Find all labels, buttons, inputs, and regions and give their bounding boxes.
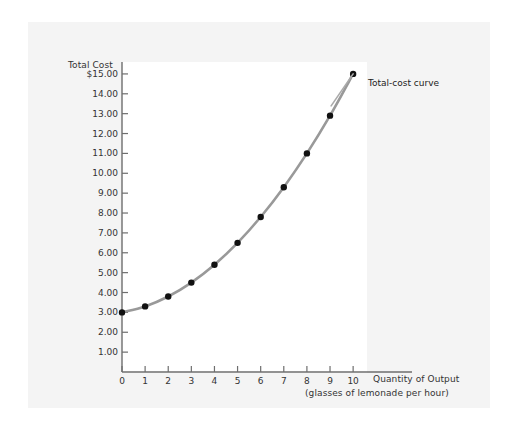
x-axis-tick-label: 7 (281, 376, 287, 386)
x-axis-tick-label: 6 (258, 376, 264, 386)
x-axis-tick-label: 10 (347, 376, 358, 386)
y-axis-title: Total Cost (68, 60, 113, 70)
x-axis-tick-label: 2 (165, 376, 171, 386)
figure-root: 1.002.003.004.005.006.007.008.009.0010.0… (0, 0, 507, 426)
x-axis-tick-label: 1 (142, 376, 148, 386)
x-axis-tick-label: 8 (304, 376, 310, 386)
x-axis-tick-label: 0 (119, 376, 125, 386)
x-axis-title: Quantity of Output (373, 374, 459, 384)
x-axis-tick-label: 4 (212, 376, 218, 386)
x-axis-tick-label: 9 (327, 376, 333, 386)
series-label: Total-cost curve (368, 78, 439, 88)
x-axis-tick-label: 5 (235, 376, 241, 386)
x-axis-subtitle: (glasses of lemonade per hour) (305, 388, 449, 398)
x-axis-tick-label: 3 (188, 376, 194, 386)
